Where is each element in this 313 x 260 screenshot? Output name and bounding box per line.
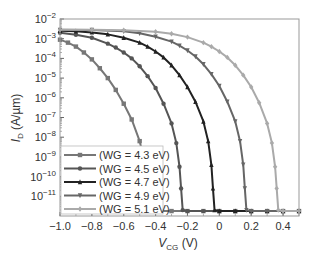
y-tick-label: 10−6: [35, 90, 57, 104]
data-point-marker: [90, 57, 94, 61]
data-point-marker: [238, 139, 242, 144]
y-axis-label-unit: (A/µm): [9, 94, 23, 134]
data-point-marker: [130, 56, 134, 60]
legend-label: (WG = 4.9 eV): [99, 190, 170, 202]
legend-marker-icon: [78, 166, 82, 170]
x-tick-label: 0.4: [275, 220, 290, 232]
legend-label: (WG = 4.7 eV): [99, 176, 170, 188]
data-point-marker: [185, 209, 189, 213]
iv-chart: 10−210−310−410−510−610−710−810−910−1010−…: [0, 0, 313, 260]
x-axis-label-unit: (V): [178, 236, 197, 250]
y-axis-label: ID (A/µm): [9, 94, 25, 143]
data-point-marker: [122, 50, 126, 54]
data-point-marker: [243, 186, 247, 191]
data-point-marker: [114, 88, 118, 92]
data-point-marker: [174, 141, 178, 145]
data-point-marker: [179, 186, 183, 190]
data-point-marker: [106, 41, 110, 45]
x-axis-ticks: −1.0−0.8−0.6−0.4−0.200.20.4: [49, 212, 299, 232]
x-axis-label: VCG (V): [158, 236, 197, 252]
y-tick-label: 10−3: [35, 31, 57, 45]
legend-label: (WG = 4.3 eV): [99, 149, 170, 161]
data-point-marker: [185, 34, 189, 39]
x-tick-label: 0.2: [244, 220, 259, 232]
data-point-marker: [90, 36, 94, 40]
data-point-marker: [177, 165, 181, 169]
data-point-marker: [180, 208, 184, 212]
data-point-marker: [274, 186, 278, 191]
data-point-marker: [169, 209, 173, 213]
legend: (WG = 4.3 eV)(WG = 4.5 eV)(WG = 4.7 eV)(…: [61, 146, 170, 215]
legend-marker-icon: [78, 153, 82, 157]
data-point-marker: [130, 117, 134, 121]
x-tick-label: −0.8: [81, 220, 103, 232]
x-tick-label: −0.6: [113, 220, 135, 232]
data-point-marker: [153, 86, 157, 90]
data-point-marker: [66, 40, 70, 44]
data-point-marker: [106, 76, 110, 80]
y-tick-label: 10−10: [30, 169, 56, 183]
data-point-marker: [74, 44, 78, 48]
data-point-marker: [206, 138, 210, 143]
data-point-marker: [114, 45, 118, 49]
data-point-marker: [169, 121, 173, 125]
data-point-marker: [209, 162, 213, 167]
legend-label: (WG = 4.5 eV): [99, 163, 170, 175]
data-point-marker: [161, 102, 165, 106]
data-point-marker: [241, 163, 245, 168]
data-point-marker: [153, 29, 157, 34]
data-point-marker: [201, 209, 205, 213]
data-point-marker: [137, 139, 141, 143]
data-point-marker: [169, 31, 173, 36]
data-point-marker: [122, 102, 126, 106]
data-point-marker: [273, 164, 277, 169]
y-tick-label: 10−11: [31, 188, 57, 202]
x-tick-label: −0.4: [145, 220, 167, 232]
x-tick-label: −0.2: [177, 220, 199, 232]
legend-label: (WG = 5.1 eV): [99, 203, 170, 215]
x-tick-label: 0: [216, 220, 222, 232]
data-point-marker: [211, 186, 215, 191]
data-point-marker: [98, 66, 102, 70]
data-point-marker: [82, 50, 86, 54]
y-tick-label: 10−7: [35, 110, 57, 124]
data-point-marker: [145, 74, 149, 78]
data-point-marker: [233, 119, 237, 124]
y-tick-label: 10−2: [35, 11, 57, 25]
x-tick-label: −1.0: [49, 220, 71, 232]
y-tick-label: 10−8: [35, 129, 57, 143]
x-axis-label-sub: CG: [166, 243, 178, 252]
y-tick-label: 10−4: [35, 50, 57, 64]
data-point-marker: [270, 140, 274, 145]
y-tick-label: 10−9: [35, 149, 57, 163]
data-point-marker: [201, 40, 205, 45]
y-tick-label: 10−5: [35, 70, 57, 84]
data-point-marker: [137, 64, 141, 68]
